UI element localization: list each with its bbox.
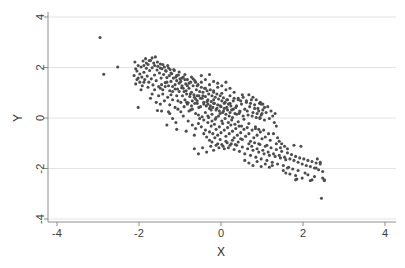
data-point	[194, 127, 197, 130]
data-point	[226, 126, 229, 129]
data-point	[142, 64, 145, 67]
data-point	[254, 156, 257, 159]
data-point	[205, 135, 208, 138]
x-tick-label-2: 2	[300, 227, 306, 239]
data-point	[231, 139, 234, 142]
data-point	[290, 153, 293, 156]
data-point	[189, 108, 192, 111]
data-point	[215, 107, 218, 110]
data-point	[294, 155, 297, 158]
data-point	[301, 177, 304, 180]
data-point	[176, 108, 179, 111]
data-point	[220, 99, 223, 102]
data-point	[242, 128, 245, 131]
data-point	[179, 110, 182, 113]
data-point	[175, 128, 178, 131]
data-point	[228, 87, 231, 90]
data-point	[221, 122, 224, 125]
data-point	[241, 93, 244, 96]
data-point	[204, 111, 207, 114]
data-point	[269, 139, 272, 142]
data-point	[168, 103, 171, 106]
data-point	[174, 87, 177, 90]
data-point	[272, 152, 275, 155]
data-point	[267, 151, 270, 154]
data-point	[229, 104, 232, 107]
data-point	[233, 148, 236, 151]
data-point	[292, 144, 295, 147]
data-point	[142, 59, 145, 62]
data-point	[275, 148, 278, 151]
data-point	[282, 169, 285, 172]
data-point	[197, 113, 200, 116]
data-point	[233, 97, 236, 100]
data-point	[229, 124, 232, 127]
data-point	[246, 147, 249, 150]
data-point	[267, 132, 270, 135]
data-point	[236, 134, 239, 137]
data-point	[218, 125, 221, 128]
y-axis-title: Y	[11, 114, 25, 122]
data-point	[316, 157, 319, 160]
data-point	[185, 92, 188, 95]
data-point	[197, 122, 200, 125]
y-tick-label-2: 2	[34, 64, 46, 70]
data-point	[244, 135, 247, 138]
data-point	[219, 104, 222, 107]
data-point	[134, 82, 137, 85]
data-point	[305, 164, 308, 167]
data-point	[260, 137, 263, 140]
data-point	[199, 97, 202, 100]
data-point	[157, 94, 160, 97]
data-point	[135, 78, 138, 81]
data-point	[179, 101, 182, 104]
data-point	[220, 92, 223, 95]
data-point	[230, 108, 233, 111]
data-point	[248, 105, 251, 108]
data-point	[144, 57, 147, 60]
data-point	[154, 55, 157, 58]
data-point	[251, 96, 254, 99]
data-point	[174, 106, 177, 109]
data-point	[193, 102, 196, 105]
data-point	[264, 135, 267, 138]
data-point	[149, 97, 152, 100]
data-point	[153, 74, 156, 77]
data-point	[209, 88, 212, 91]
data-point	[224, 135, 227, 138]
data-point	[238, 150, 241, 153]
data-point	[247, 132, 250, 135]
data-point	[246, 126, 249, 129]
data-point	[242, 118, 245, 121]
data-point	[102, 73, 105, 76]
data-point	[212, 80, 215, 83]
y-tick-label--4: -4	[34, 214, 46, 224]
data-point	[284, 172, 287, 175]
data-point	[191, 124, 194, 127]
data-point	[185, 101, 188, 104]
data-point	[160, 83, 163, 86]
data-point	[198, 117, 201, 120]
data-point	[190, 76, 193, 79]
data-point	[216, 82, 219, 85]
data-point	[274, 112, 277, 115]
data-point	[155, 68, 158, 71]
data-point	[217, 98, 220, 101]
data-point	[297, 169, 300, 172]
data-point	[216, 86, 219, 89]
data-point	[138, 73, 141, 76]
data-point	[228, 114, 231, 117]
data-point	[169, 80, 172, 83]
data-point	[206, 114, 209, 117]
data-point	[183, 105, 186, 108]
data-point	[310, 160, 313, 163]
data-point	[215, 92, 218, 95]
data-point	[155, 79, 158, 82]
data-point	[153, 88, 156, 91]
data-point	[272, 132, 275, 135]
data-point	[200, 74, 203, 77]
x-tick-label--4: -4	[52, 227, 62, 239]
data-point	[200, 81, 203, 84]
data-point	[147, 81, 150, 84]
data-point	[165, 124, 168, 127]
